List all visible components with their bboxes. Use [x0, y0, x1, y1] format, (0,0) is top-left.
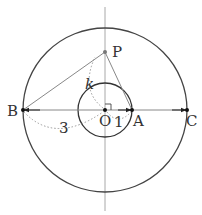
label-B: B	[7, 102, 18, 120]
point-P	[103, 50, 107, 54]
label-A: A	[132, 112, 144, 130]
label-C: C	[186, 112, 197, 130]
point-B	[21, 108, 25, 112]
label-3: 3	[59, 119, 69, 137]
label-1: 1	[114, 113, 124, 131]
label-O: O	[99, 112, 111, 130]
geometry-diagram: P B A C O k 1 3	[0, 0, 202, 215]
label-k: k	[85, 75, 94, 93]
label-P: P	[112, 43, 122, 61]
